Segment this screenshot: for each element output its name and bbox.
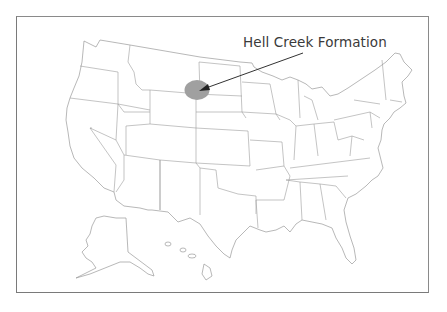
hawaii-islands xyxy=(165,242,212,280)
annotation-label: Hell Creek Formation xyxy=(243,34,387,50)
alaska-outline xyxy=(76,216,154,278)
